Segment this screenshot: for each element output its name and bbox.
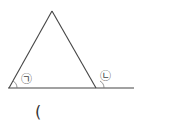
- angle-label-a: ㉠: [21, 74, 32, 85]
- angle-arc-a: [13, 81, 17, 88]
- triangle-diagram: [0, 0, 195, 128]
- answer-blank-paren: (: [35, 104, 41, 120]
- right-side: [52, 11, 96, 88]
- angle-label-b: ㉡: [100, 71, 111, 82]
